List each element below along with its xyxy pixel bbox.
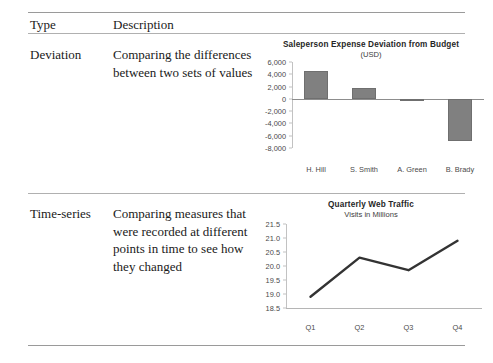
bar-chart-subtitle: (USD) xyxy=(252,50,490,59)
document-page: Type Description Deviation Comparing the… xyxy=(0,0,493,363)
y-axis-label: 2,000 xyxy=(252,82,286,91)
line-chart-title: Quarterly Web Traffic xyxy=(252,200,490,209)
rule-bottom xyxy=(28,345,465,346)
bar-b-brady xyxy=(448,99,473,141)
deviation-bar-chart: Saleperson Expense Deviation from Budget… xyxy=(252,38,490,183)
row-description-time-series: Comparing measures that were recorded at… xyxy=(113,205,253,275)
line-chart-subtitle: Visits in Millions xyxy=(252,210,490,219)
y-axis-label: 6,000 xyxy=(252,58,286,67)
bar-chart-plot-area: 6,0004,0002,0000-2,000-4,000-6,000-8,000 xyxy=(252,60,490,162)
rule-row-separator xyxy=(28,193,465,194)
line-series-path xyxy=(252,220,490,320)
y-axis-label: 0 xyxy=(252,94,286,103)
rule-top xyxy=(28,12,465,13)
y-axis-label: -4,000 xyxy=(252,119,286,128)
y-axis-spine xyxy=(292,62,293,148)
line-chart-plot-area: 21.521.020.520.019.519.018.5 xyxy=(252,220,490,320)
y-axis-label: -2,000 xyxy=(252,107,286,116)
bar-chart-title: Saleperson Expense Deviation from Budget xyxy=(252,40,490,49)
timeseries-line-chart: Quarterly Web Traffic Visits in Millions… xyxy=(252,198,490,338)
y-axis-label: -8,000 xyxy=(252,144,286,153)
bar-s-smith xyxy=(352,88,377,99)
y-axis-label: -6,000 xyxy=(252,131,286,140)
bar-h-hill xyxy=(304,71,329,99)
bar-a-green xyxy=(400,99,425,101)
y-axis-label: 4,000 xyxy=(252,70,286,79)
x-axis-label: Q4 xyxy=(428,323,488,332)
x-axis-label: B. Brady xyxy=(430,165,490,174)
row-description-deviation: Comparing the differences between two se… xyxy=(113,46,253,81)
column-header-description: Description xyxy=(113,16,253,34)
